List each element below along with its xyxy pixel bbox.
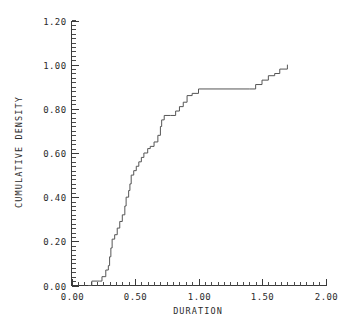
y-tick-label: 0.60: [43, 149, 66, 159]
y-tick-label: 0.80: [43, 105, 66, 115]
y-tick-label: 0.40: [43, 193, 66, 203]
x-axis-title: DURATION: [173, 306, 223, 316]
chart-page: 0.000.200.400.600.801.001.20 0.000.501.0…: [0, 0, 352, 329]
chart-background: [0, 0, 352, 329]
x-tick-label: 1.00: [188, 292, 211, 302]
x-tick-label: 2.00: [315, 292, 338, 302]
y-tick-label: 1.00: [43, 61, 66, 71]
y-tick-label: 0.20: [43, 237, 66, 247]
x-tick-label: 0.50: [124, 292, 147, 302]
y-tick-label: 1.20: [43, 17, 66, 27]
y-tick-label: 0.00: [43, 282, 66, 292]
ecdf-chart: 0.000.200.400.600.801.001.20 0.000.501.0…: [0, 0, 352, 329]
y-axis-title: CUMULATIVE DENSITY: [14, 96, 24, 208]
x-tick-label: 1.50: [251, 292, 274, 302]
x-tick-label: 0.00: [61, 292, 84, 302]
